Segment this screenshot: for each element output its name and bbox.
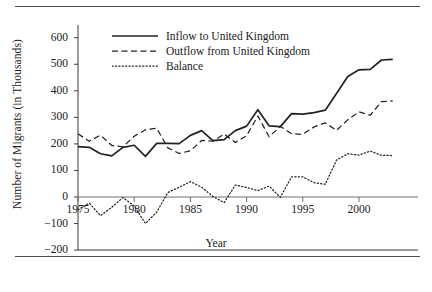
legend-item: Balance (112, 58, 310, 73)
legend-item: Inflow to United Kingdom (112, 28, 310, 43)
x-tick-label: 1995 (283, 204, 323, 216)
y-tick-label: 200 (24, 138, 68, 150)
legend-key-outflow (112, 45, 158, 56)
x-tick-label: 1990 (227, 204, 267, 216)
series-line-dashed (78, 101, 393, 154)
y-tick-label: 500 (24, 58, 68, 70)
chart-legend: Inflow to United KingdomOutflow from Uni… (112, 28, 310, 73)
y-tick-label: 600 (24, 32, 68, 44)
y-tick-label: −100 (24, 218, 68, 230)
legend-item-label: Outflow from United Kingdom (166, 45, 310, 57)
y-tick-label: 0 (24, 191, 68, 203)
figure-container: Number of Migrants (in Thousands) Year 6… (0, 0, 432, 292)
y-tick-label: 400 (24, 85, 68, 97)
legend-key-inflow (112, 30, 158, 41)
y-tick-label: −200 (24, 244, 68, 256)
x-tick-label: 1985 (170, 204, 210, 216)
x-tick-label: 1980 (114, 204, 154, 216)
y-tick-label: 300 (24, 111, 68, 123)
x-tick-label: 1975 (58, 204, 98, 216)
legend-item-label: Balance (166, 60, 203, 72)
legend-item: Outflow from United Kingdom (112, 43, 310, 58)
legend-key-balance (112, 60, 158, 71)
data-series-lines (78, 59, 393, 223)
legend-item-label: Inflow to United Kingdom (166, 30, 289, 42)
y-tick-label: 100 (24, 164, 68, 176)
x-tick-label: 2000 (339, 204, 379, 216)
